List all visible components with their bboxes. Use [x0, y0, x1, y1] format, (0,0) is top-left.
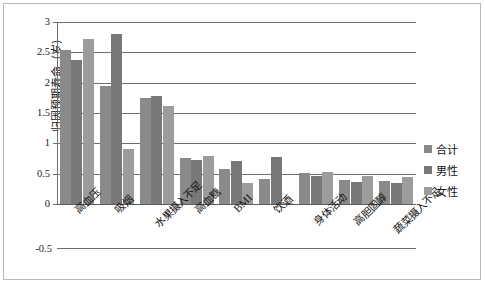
- bar: [351, 182, 362, 204]
- bar-group: [376, 22, 416, 204]
- y-tick-label: 1.5: [37, 108, 50, 118]
- y-tick-label: 1: [45, 138, 50, 148]
- legend-swatch-icon: [424, 187, 432, 195]
- bar: [140, 98, 151, 204]
- legend-item[interactable]: 合计: [424, 140, 482, 158]
- bar-group: [177, 22, 217, 204]
- plot-area: [57, 22, 416, 204]
- y-tick: 0: [22, 199, 50, 209]
- bar-group: [217, 22, 257, 204]
- y-tick: 2: [22, 78, 50, 88]
- bar: [100, 86, 111, 204]
- bar: [391, 183, 402, 204]
- bar-chart: 归因预期寿命（岁） 32.521.510.50 -0.5 高血压吸烟水果摄入不足…: [0, 0, 485, 284]
- y-tick-label: 0: [45, 199, 50, 209]
- bar: [163, 106, 174, 204]
- bar: [60, 50, 71, 204]
- y-tick: 3: [22, 17, 50, 27]
- x-axis-labels: 高血压吸烟水果摄入不足高血糖BMI饮酒身体活动高胆固醇蔬菜摄入不足: [57, 204, 416, 284]
- bar: [402, 177, 413, 204]
- bar: [299, 173, 310, 204]
- y-tick: 1.5: [22, 108, 50, 118]
- bar: [259, 179, 270, 204]
- bar-group: [256, 22, 296, 204]
- bar-group: [137, 22, 177, 204]
- y-tick-label: 3: [45, 17, 50, 27]
- y-tick-label: 0.5: [37, 169, 50, 179]
- bars-layer: [57, 22, 416, 204]
- legend-item[interactable]: 女性: [424, 182, 482, 200]
- legend-label: 合计: [436, 141, 458, 157]
- y-tick-label: 2: [45, 78, 50, 88]
- bar: [71, 60, 82, 204]
- y-tick: 0.5: [22, 169, 50, 179]
- y-tick-label: 2.5: [37, 47, 50, 57]
- legend-swatch-icon: [424, 145, 432, 153]
- bar: [111, 34, 122, 204]
- legend-item[interactable]: 男性: [424, 161, 482, 179]
- legend-swatch-icon: [424, 166, 432, 174]
- bar: [151, 96, 162, 204]
- bar-group: [97, 22, 137, 204]
- y-tick: 1: [22, 138, 50, 148]
- legend: 合计男性女性: [424, 140, 482, 203]
- bar: [219, 169, 230, 204]
- bar-group: [57, 22, 97, 204]
- legend-label: 男性: [436, 162, 458, 178]
- bar: [83, 39, 94, 204]
- bar: [311, 176, 322, 205]
- bar-group: [296, 22, 336, 204]
- legend-label: 女性: [436, 183, 458, 199]
- bar-group: [336, 22, 376, 204]
- y-tick-label-minus-half: -0.5: [22, 243, 52, 254]
- y-tick: 2.5: [22, 47, 50, 57]
